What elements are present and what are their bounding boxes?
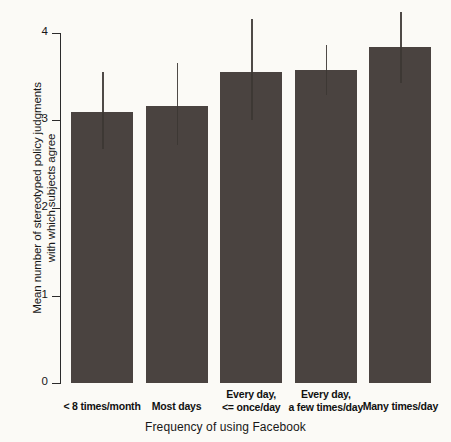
error-bar-lower-2: [251, 72, 253, 120]
error-bar-lower-3: [326, 70, 328, 94]
x-axis-title: Frequency of using Facebook: [0, 420, 451, 434]
bar-1: [146, 106, 208, 383]
bar-4: [369, 47, 431, 383]
bars-layer: [0, 0, 451, 442]
error-bar-upper-2: [251, 19, 253, 71]
bar-chart: Mean number of stereotyped policy judgme…: [0, 0, 451, 442]
x-axis-title-text: Frequency of using Facebook: [145, 420, 306, 434]
error-bar-lower-4: [400, 47, 402, 83]
x-axis-label-3-line1: Every day,: [278, 388, 374, 401]
error-bar-lower-0: [102, 112, 104, 149]
bar-3: [295, 70, 357, 383]
x-axis-label-4: Many times/day: [352, 400, 448, 413]
error-bar-upper-0: [102, 72, 104, 112]
bar-0: [71, 112, 133, 383]
error-bar-upper-4: [400, 12, 402, 47]
error-bar-upper-1: [177, 63, 179, 106]
error-bar-upper-3: [326, 45, 328, 70]
error-bar-lower-1: [177, 106, 179, 145]
x-axis-label-4-line2: Many times/day: [352, 400, 448, 413]
